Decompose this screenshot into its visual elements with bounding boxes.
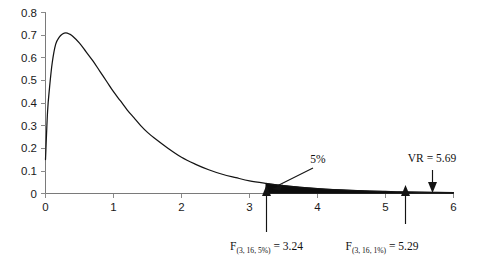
critical-5pct-label-value: = 3.24 [271, 240, 304, 252]
tail-percent-label: 5% [310, 153, 326, 165]
critical-1pct-label-subscript: (3, 16, 1%) [352, 246, 387, 255]
tail-percent-arrow-shaft [277, 168, 313, 186]
variance-ratio-label: VR = 5.69 [408, 152, 457, 164]
variance-ratio-label-value: = 5.69 [424, 152, 457, 164]
y-tick-label-0.2: 0.2 [21, 142, 37, 154]
annotation-critical-5pct: F(3, 16, 5%) = 3.24 [230, 185, 303, 255]
critical-1pct-label-value: = 5.29 [386, 240, 419, 252]
chart-canvas: 0.8 0.7 0.6 0.5 0.4 0.3 0.2 0.1 0 0 1 2 … [0, 0, 477, 258]
critical-5pct-label-subscript: (3, 16, 5%) [236, 246, 271, 255]
y-tick-label-0.8: 0.8 [21, 7, 37, 19]
y-tick-label-0.1: 0.1 [21, 165, 37, 177]
x-tick-label-2: 2 [178, 201, 184, 213]
critical-1pct-arrow-head [401, 185, 410, 196]
critical-5pct-label: F(3, 16, 5%) = 3.24 [230, 240, 303, 255]
annotation-variance-ratio: VR = 5.69 [408, 152, 457, 193]
y-tick-label-0.4: 0.4 [21, 97, 38, 109]
critical-1pct-label: F(3, 16, 1%) = 5.29 [346, 240, 419, 255]
x-tick-label-1: 1 [110, 201, 116, 213]
y-tick-label-0.5: 0.5 [21, 74, 37, 86]
y-tick-label-0.6: 0.6 [21, 52, 37, 64]
x-tick-label-4: 4 [314, 201, 321, 213]
y-axis: 0.8 0.7 0.6 0.5 0.4 0.3 0.2 0.1 0 [21, 7, 46, 200]
variance-ratio-label-symbol: VR [408, 152, 424, 164]
y-tick-label-0: 0 [31, 188, 37, 200]
annotation-5-percent: 5% [272, 153, 326, 191]
x-tick-label-3: 3 [246, 201, 252, 213]
annotation-critical-1pct: F(3, 16, 1%) = 5.29 [346, 185, 419, 255]
density-curve [46, 33, 454, 193]
variance-ratio-arrow-head [428, 182, 437, 193]
x-tick-label-5: 5 [382, 201, 388, 213]
x-tick-label-0: 0 [42, 201, 48, 213]
x-axis: 0 1 2 3 4 5 6 [42, 194, 456, 214]
f-distribution-chart: 0.8 0.7 0.6 0.5 0.4 0.3 0.2 0.1 0 0 1 2 … [0, 0, 477, 258]
y-tick-label-0.7: 0.7 [21, 29, 37, 41]
y-tick-label-0.3: 0.3 [21, 120, 37, 132]
x-tick-label-6: 6 [450, 201, 456, 213]
